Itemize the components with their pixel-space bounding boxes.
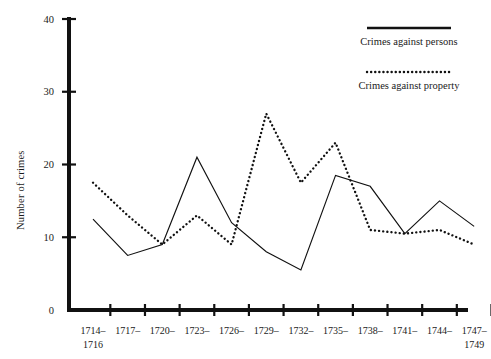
y-tick-label: 20 xyxy=(44,159,55,170)
chart-container: 010203040 Number of crimes 1714–17161717… xyxy=(0,0,491,359)
x-tick-label: 1723– xyxy=(184,325,210,336)
x-tick-label: 1732– xyxy=(288,325,314,336)
data-series-group xyxy=(93,114,474,270)
x-tick-label: 1735– xyxy=(323,325,349,336)
y-axis-title: Number of crimes xyxy=(15,150,26,230)
y-tick-label: 40 xyxy=(44,14,55,25)
chart-axes xyxy=(69,19,466,310)
x-tick-label: 1741– xyxy=(392,325,418,336)
x-tick-label: 1714– xyxy=(81,325,107,336)
x-tick-label: 1720– xyxy=(150,325,176,336)
x-tick-label: 1747– xyxy=(462,325,488,336)
x-tick-label: 1738– xyxy=(358,325,384,336)
y-tick-label: 0 xyxy=(49,305,54,316)
legend-label: Crimes against property xyxy=(359,80,461,91)
x-tick-label-second-line: 1716 xyxy=(83,339,103,350)
series-line-dotted xyxy=(93,114,474,245)
y-axis-ticks: 010203040 xyxy=(44,14,77,316)
x-tick-label: 1729– xyxy=(254,325,280,336)
chart-legend: Crimes against personsCrimes against pro… xyxy=(359,28,461,91)
x-tick-label: 1717– xyxy=(115,325,141,336)
y-tick-label: 30 xyxy=(44,86,55,97)
y-tick-label: 10 xyxy=(44,232,55,243)
series-line-solid xyxy=(93,157,474,270)
legend-label: Crimes against persons xyxy=(360,36,457,47)
line-chart: 010203040 Number of crimes 1714–17161717… xyxy=(0,0,491,359)
x-tick-label: 1726– xyxy=(219,325,245,336)
x-tick-label: 1744– xyxy=(427,325,453,336)
x-tick-label-second-line: 1749 xyxy=(464,339,484,350)
